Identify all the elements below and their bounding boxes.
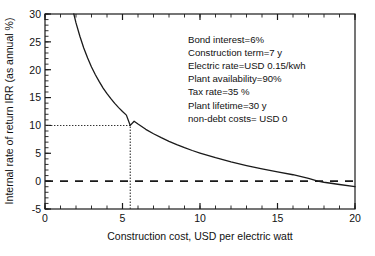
x-axis-tick-labels: 05101520: [42, 212, 361, 224]
reference-lines: [45, 125, 355, 209]
x-tick-label: 15: [272, 212, 284, 224]
annotation-line: non-debt costs= USD 0: [188, 113, 287, 124]
x-tick-label: 20: [349, 212, 361, 224]
chart-figure: 05101520 -5051015202530 Construction cos…: [0, 0, 375, 256]
y-tick-label: 25: [29, 36, 41, 48]
annotation-line: Plant lifetime=30 y: [188, 100, 267, 111]
y-tick-label: 0: [35, 175, 41, 187]
irr-line-chart: 05101520 -5051015202530 Construction cos…: [0, 0, 375, 256]
annotation-line: Bond interest=6%: [188, 34, 264, 45]
y-tick-label: 5: [35, 147, 41, 159]
y-axis-major-ticks: [45, 14, 51, 209]
y-tick-label: 15: [29, 91, 41, 103]
y-tick-label: -5: [32, 203, 41, 215]
y-tick-label: 10: [29, 119, 41, 131]
annotation-line: Electric rate=USD 0.15/kwh: [188, 60, 306, 71]
y-axis-tick-labels: -5051015202530: [29, 8, 41, 215]
y-tick-label: 30: [29, 8, 41, 20]
x-tick-label: 0: [42, 212, 48, 224]
x-tick-label: 10: [194, 212, 206, 224]
x-tick-label: 5: [120, 212, 126, 224]
annotation-line: Tax rate=35 %: [188, 86, 250, 97]
x-axis-title: Construction cost, USD per electric watt: [107, 230, 293, 242]
annotation-line: Construction term=7 y: [188, 47, 282, 58]
parameter-annotations: Bond interest=6%Construction term=7 yEle…: [188, 34, 306, 124]
y-tick-label: 20: [29, 64, 41, 76]
y-axis-title: Internal rate of return IRR (as annual %…: [3, 18, 15, 205]
annotation-line: Plant availability=90%: [188, 73, 282, 84]
